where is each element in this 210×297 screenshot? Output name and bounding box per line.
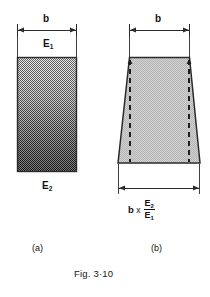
arrow-left-b-bottom [119,185,125,190]
denominator-symbol: E [145,210,151,220]
e2-subscript: 2 [49,185,53,192]
e1-subscript: 1 [50,43,54,50]
panel-b-sublabel: (b) [151,244,162,253]
formula-operator: x [136,205,140,215]
figure-3-10: b E1 E2 b b x E2 E1 (a) (b) Fig. 3·10 [0,0,210,297]
arrow-right-a [70,27,76,32]
panel-b-drawing [118,24,200,194]
formula-base: b [128,204,134,215]
panel-a-block [18,58,77,172]
numerator-subscript: 2 [151,203,154,209]
e2-symbol: E [42,180,49,191]
e1-symbol: E [43,38,50,49]
figure-caption: Fig. 3·10 [74,269,113,279]
arrow-right-b-bottom [193,185,199,190]
panel-b-width-label: b [155,14,161,24]
formula-numerator: E2 [144,199,155,210]
panel-a-width-label: b [43,14,49,24]
panel-a-modulus-e1-label: E1 [43,39,53,49]
panel-a-modulus-e2-label: E2 [42,181,52,191]
formula-fraction: E2 E1 [144,199,155,220]
panel-b-bottom-dimension-formula: b x E2 E1 [128,199,155,220]
numerator-symbol: E [145,198,151,208]
formula-denominator: E1 [144,210,155,220]
panel-a-sublabel: (a) [32,244,43,253]
panel-a-dimension-b [18,24,77,36]
panel-b-dimension-b [130,24,190,36]
arrow-right-b-top [183,27,189,32]
denominator-subscript: 1 [151,215,154,221]
arrow-left-b-top [130,27,136,32]
arrow-left-a [18,27,24,32]
